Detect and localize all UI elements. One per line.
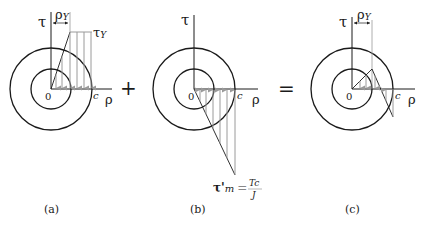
rho-label: ρ [408,92,416,107]
stress-arrows [56,32,91,88]
elastic-stress-line [51,32,70,89]
rho-y-label: ρY [55,7,70,22]
c-label: c [237,90,243,101]
svg-text:J: J [250,190,257,200]
stress-arrows [200,90,235,175]
caption-a: (a) [44,203,59,216]
caption-b: (b) [190,203,206,216]
rho-label: ρ [105,92,113,107]
torsion-residual-stress-diagram: τ ρY τY 0 c ρ (a) + τ 0 c ρ τ'm= Tc J [0,0,425,225]
plus-operator: + [120,76,137,100]
origin-label: 0 [45,91,51,102]
origin-label: 0 [346,91,352,102]
rho-label: ρ [252,92,260,107]
panel-b: τ 0 c ρ τ'm= Tc J (b) [153,11,262,216]
svg-text:Tc: Tc [249,178,259,188]
c-label: c [395,90,401,101]
c-label: c [93,90,99,101]
origin-label: 0 [188,91,194,102]
tau-y-label: τY [93,25,107,40]
caption-c: (c) [345,203,360,216]
tau-label: τ [38,13,46,31]
panel-a: τ ρY τY 0 c ρ (a) [10,7,113,216]
stress-arrows [360,75,386,101]
svg-text:τ'm=: τ'm= [213,181,247,195]
max-unloading-stress-formula: τ'm= Tc J [213,178,262,200]
panel-c: τ ρY 0 c ρ (c) [311,7,416,216]
equals-operator: = [278,77,295,101]
tau-label: τ [181,11,189,29]
rho-y-label: ρY [357,7,372,22]
tau-label: τ [339,13,347,31]
